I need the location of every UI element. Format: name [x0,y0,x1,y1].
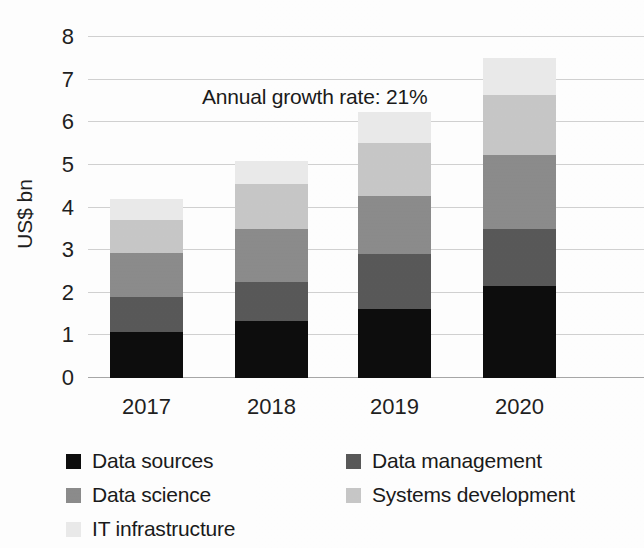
y-tick-label-4: 4 [62,197,74,219]
x-tick-label-2020: 2020 [495,394,544,420]
bar-segment [110,199,183,220]
bar-segment [358,254,431,309]
x-tick-label-2017: 2017 [122,394,171,420]
bar-group-2017: 2017 [110,37,183,378]
legend-label: Data management [372,449,542,473]
growth-rate-annotation: Annual growth rate: 21% [202,85,427,109]
legend-item[interactable]: IT infrastructure [66,512,366,546]
legend-swatch-icon [346,454,361,469]
legend-row: Data sourcesData management [66,444,626,478]
y-tick-label-3: 3 [62,239,74,261]
legend-swatch-icon [66,454,81,469]
legend-swatch-icon [66,522,81,537]
legend-label: Data science [92,483,211,507]
bar-segment [235,161,308,184]
bar-segment [483,286,556,378]
stacked-bar-chart: US$ bn 012345678 2017201820192020 Annual… [0,0,644,548]
legend-swatch-icon [346,488,361,503]
y-tick-label-7: 7 [62,69,74,91]
y-tick-label-0: 0 [62,367,74,389]
bar-segment [235,321,308,378]
legend-label: IT infrastructure [92,517,235,541]
y-tick-label-8: 8 [62,26,74,48]
x-tick-label-2019: 2019 [370,394,419,420]
bar-segment [235,229,308,282]
bar-segment [358,309,431,378]
bar-group-2020: 2020 [483,37,556,378]
y-axis-title: US$ bn [13,168,37,260]
bar-segment [358,143,431,197]
legend-item[interactable]: Data science [66,478,346,512]
y-tick-label-5: 5 [62,154,74,176]
legend-label: Data sources [92,449,213,473]
legend-item[interactable]: Data sources [66,444,346,478]
bar-segment [483,95,556,155]
legend-item[interactable]: Systems development [346,478,626,512]
bar-segment [235,282,308,321]
y-tick-label-1: 1 [62,324,74,346]
legend-row: Data scienceSystems development [66,478,626,512]
bar-segment [235,184,308,229]
bar-segment [110,220,183,253]
bar-segment [358,112,431,143]
plot-area: 012345678 2017201820192020 Annual growth… [88,37,644,378]
y-tick-label-2: 2 [62,282,74,304]
legend-swatch-icon [66,488,81,503]
legend-row: IT infrastructure [66,512,626,546]
legend-label: Systems development [372,483,575,507]
bar-segment [483,155,556,229]
chart-legend: Data sourcesData managementData scienceS… [66,444,626,546]
bar-segment [110,297,183,332]
y-tick-label-6: 6 [62,111,74,133]
bar-segment [483,229,556,286]
x-tick-label-2018: 2018 [247,394,296,420]
bar-segment [358,196,431,254]
bar-segment [483,58,556,94]
bar-segment [110,332,183,378]
legend-item[interactable]: Data management [346,444,626,478]
bar-segment [110,253,183,297]
